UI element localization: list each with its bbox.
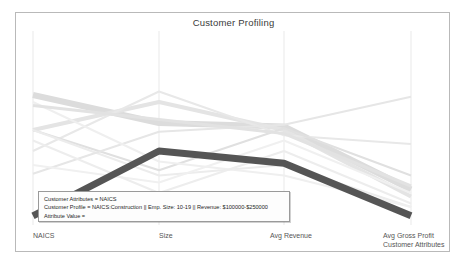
screenshot-root: Customer Profiling NAICS Size Avg Revenu…: [0, 0, 468, 266]
x-axis-title: Customer Attributes: [383, 241, 444, 248]
axis-tick-avg-revenue: Avg Revenue: [270, 232, 312, 239]
series-line[interactable]: [33, 92, 411, 152]
axis-tick-naics: NAICS: [33, 232, 54, 239]
axis-tick-size: Size: [159, 232, 173, 239]
tooltip-line-profile: Customer Profile = NAICS:Construction ||…: [44, 203, 285, 211]
tooltip-line-value: Attribute Value =: [44, 212, 285, 220]
axis-tick-avg-gross-profit: Avg Gross Profit: [383, 232, 434, 239]
hover-tooltip: Customer Attributes = NAICS Customer Pro…: [38, 191, 290, 222]
tooltip-line-attribute: Customer Attributes = NAICS: [44, 195, 285, 203]
